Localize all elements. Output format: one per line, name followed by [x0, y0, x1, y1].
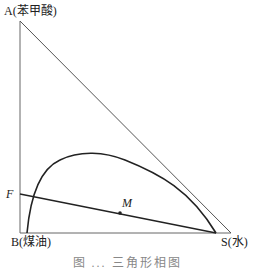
figure-caption: 图 ... 三角形相图 — [0, 253, 254, 271]
line-fs — [20, 194, 216, 233]
point-m — [118, 211, 122, 215]
label-s: S(水) — [221, 235, 248, 249]
label-a: A(苯甲酸) — [4, 3, 57, 18]
label-f: F — [5, 187, 14, 201]
binodal-curve — [27, 153, 216, 233]
label-b: B(煤油) — [11, 235, 51, 249]
label-m: M — [121, 196, 133, 210]
